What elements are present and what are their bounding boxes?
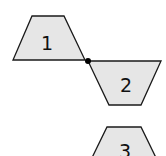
trapezoid-3: 3 [86, 127, 162, 156]
trapezoid-1: 1 [13, 16, 85, 60]
trapezoid-1-label: 1 [41, 32, 53, 54]
diagram-canvas: 1 2 3 [0, 0, 166, 156]
trapezoid-2: 2 [88, 61, 161, 105]
trapezoid-3-label: 3 [119, 140, 131, 156]
trapezoid-2-label: 2 [120, 74, 132, 96]
pivot-point-dot [85, 58, 91, 64]
